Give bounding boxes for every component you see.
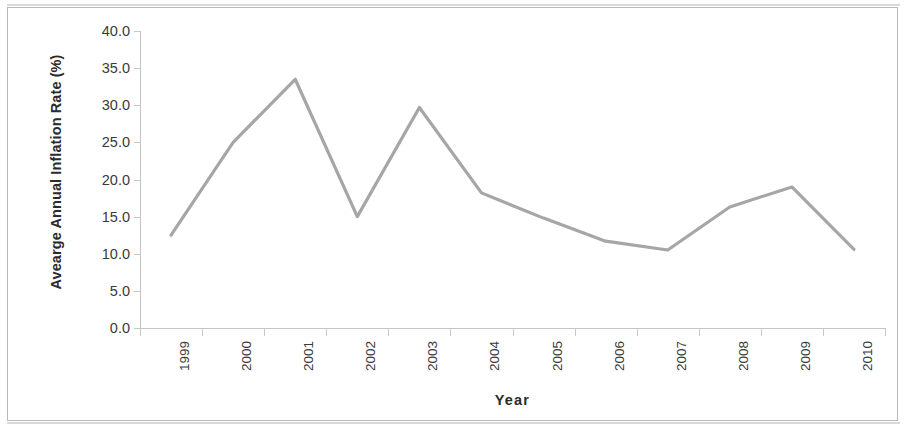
x-axis-tick-label-text: 2010 [860, 341, 875, 371]
y-axis-tick-label: 20.0 [52, 172, 130, 188]
x-axis-tick-label: 2009 [798, 341, 813, 371]
x-axis-tick-label: 2001 [301, 341, 316, 371]
x-axis-tick-label-text: 2008 [736, 341, 751, 371]
y-axis-tick-label: 35.0 [52, 60, 130, 76]
y-axis-tick-label: 10.0 [52, 246, 130, 262]
y-axis-tick-labels: 0.05.010.015.020.025.030.035.040.0 [52, 0, 130, 429]
y-axis-tick-label: 15.0 [52, 209, 130, 225]
series-line-inflation-rate [140, 31, 885, 328]
x-axis-tick-label: 2005 [550, 341, 565, 371]
x-axis-tick-label: 2007 [674, 341, 689, 371]
y-axis-tick-label: 25.0 [52, 134, 130, 150]
x-axis-tick-mark [264, 329, 265, 336]
x-axis-tick-mark [388, 329, 389, 336]
series-polyline [171, 79, 854, 250]
x-axis-tick-mark [140, 329, 141, 336]
x-axis-tick-mark [513, 329, 514, 336]
chart-figure: Avearge Annual Inflation Rate (%) 0.05.0… [0, 0, 905, 429]
figure-frame-bottom-edge [7, 422, 900, 424]
x-axis-tick-label: 2000 [239, 341, 254, 371]
x-axis-tick-label: 2008 [736, 341, 751, 371]
x-axis-tick-mark [637, 329, 638, 336]
y-axis-tick-label: 40.0 [52, 23, 130, 39]
y-axis-tick-label: 30.0 [52, 97, 130, 113]
x-axis-tick-mark [823, 329, 824, 336]
x-axis-tick-label-text: 2006 [612, 341, 627, 371]
x-axis-tick-mark [450, 329, 451, 336]
x-axis-tick-mark [326, 329, 327, 336]
x-axis-tick-label: 2010 [860, 341, 875, 371]
x-axis-tick-label-text: 2007 [674, 341, 689, 371]
x-axis-tick-label-text: 2005 [550, 341, 565, 371]
x-axis-tick-mark [202, 329, 203, 336]
x-axis-tick-mark [575, 329, 576, 336]
x-axis-tick-mark [699, 329, 700, 336]
x-axis-tick-label-text: 2002 [363, 341, 378, 371]
x-axis-tick-label-text: 1999 [177, 341, 192, 371]
x-axis-tick-label: 2003 [425, 341, 440, 371]
figure-frame-top-edge [7, 4, 900, 6]
x-axis-tick-label-text: 2003 [425, 341, 440, 371]
x-axis-tick-label-text: 2001 [301, 341, 316, 371]
x-axis-tick-label: 1999 [177, 341, 192, 371]
x-axis-tick-label: 2004 [487, 341, 502, 371]
x-axis-tick-label-text: 2000 [239, 341, 254, 371]
x-axis-title: Year [140, 392, 885, 408]
x-axis-tick-mark [761, 329, 762, 336]
y-axis-tick-label: 5.0 [52, 283, 130, 299]
x-axis-tick-label: 2006 [612, 341, 627, 371]
x-axis-tick-label-text: 2009 [798, 341, 813, 371]
x-axis-tick-label-text: 2004 [487, 341, 502, 371]
y-axis-tick-label: 0.0 [52, 320, 130, 336]
x-axis-tick-mark [885, 329, 886, 336]
x-axis-tick-label: 2002 [363, 341, 378, 371]
